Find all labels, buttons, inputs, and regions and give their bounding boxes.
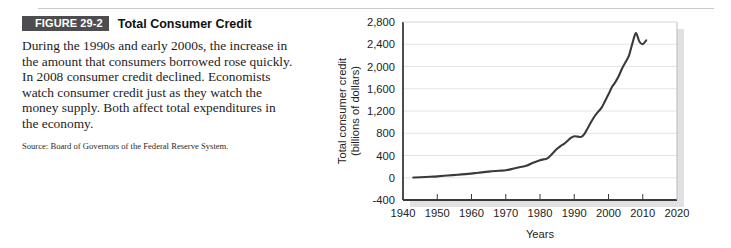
x-tick-labels: 194019501960197019801990200020102020 [391,207,690,219]
x-tick-label-2020: 2020 [665,207,690,219]
figure-header: FIGURE 29-2 Total Consumer Credit [22,15,312,32]
figure-text-column: FIGURE 29-2 Total Consumer Credit During… [22,15,312,152]
y-tick-label-0: 0 [389,172,395,184]
figure-container: FIGURE 29-2 Total Consumer Credit During… [0,0,731,248]
x-tick-label-1980: 1980 [528,207,553,219]
top-divider-rule [38,8,714,9]
x-tick-label-1970: 1970 [493,207,518,219]
y-tick-label--400: -400 [373,194,395,206]
figure-caption-text: During the 1990s and early 2000s, the in… [22,38,294,132]
y-tick-label-1600: 1,600 [367,83,395,95]
x-tick-label-1940: 1940 [391,207,416,219]
y-tick-label-400: 400 [376,150,395,162]
chart-area: -40004008001,2001,6002,0002,4002,800 194… [326,10,726,245]
figure-number-badge: FIGURE 29-2 [22,16,109,31]
y-tick-label-2400: 2,400 [367,38,395,50]
y-tick-label-1200: 1,200 [367,105,395,117]
x-tick-label-2010: 2010 [630,207,655,219]
x-tick-label-1990: 1990 [562,207,587,219]
x-tick-label-2000: 2000 [596,207,621,219]
y-tick-label-800: 800 [376,127,395,139]
y-axis-title-line2: (billions of dollars) [349,66,361,156]
figure-source-note: Source: Board of Governors of the Federa… [22,141,312,152]
y-tick-label-2800: 2,800 [367,16,395,28]
y-tick-label-2000: 2,000 [367,61,395,73]
x-axis-title: Years [526,228,555,240]
x-tick-label-1960: 1960 [459,207,484,219]
figure-title: Total Consumer Credit [118,17,252,31]
line-chart-svg: -40004008001,2001,6002,0002,4002,800 194… [326,10,726,245]
x-tick-label-1950: 1950 [425,207,450,219]
y-axis-title-line1: Total consumer credit [336,57,348,164]
y-tick-labels: -40004008001,2001,6002,0002,4002,800 [367,16,395,206]
